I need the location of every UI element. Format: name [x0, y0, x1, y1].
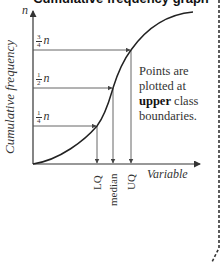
level-half-n: 12n [36, 71, 50, 87]
note-text-bold: upper [139, 94, 171, 108]
x-marker-uq: UQ [125, 174, 137, 190]
y-axis-label: Cumulative frequency [2, 40, 18, 154]
x-marker-lq: LQ [91, 175, 103, 190]
x-axis-label: Variable [147, 167, 188, 182]
level-quarter-n: 14n [36, 109, 50, 125]
annotation-note: Points are plotted at upper class bounda… [139, 64, 219, 124]
level-three-quarters-n: 34n [36, 33, 50, 49]
x-marker-median: median [107, 174, 119, 206]
note-text-pre: Points are plotted at [139, 64, 189, 93]
y-axis-top-label: n [22, 3, 28, 18]
dashed-border [212, 0, 219, 262]
cumulative-frequency-diagram [0, 0, 224, 268]
